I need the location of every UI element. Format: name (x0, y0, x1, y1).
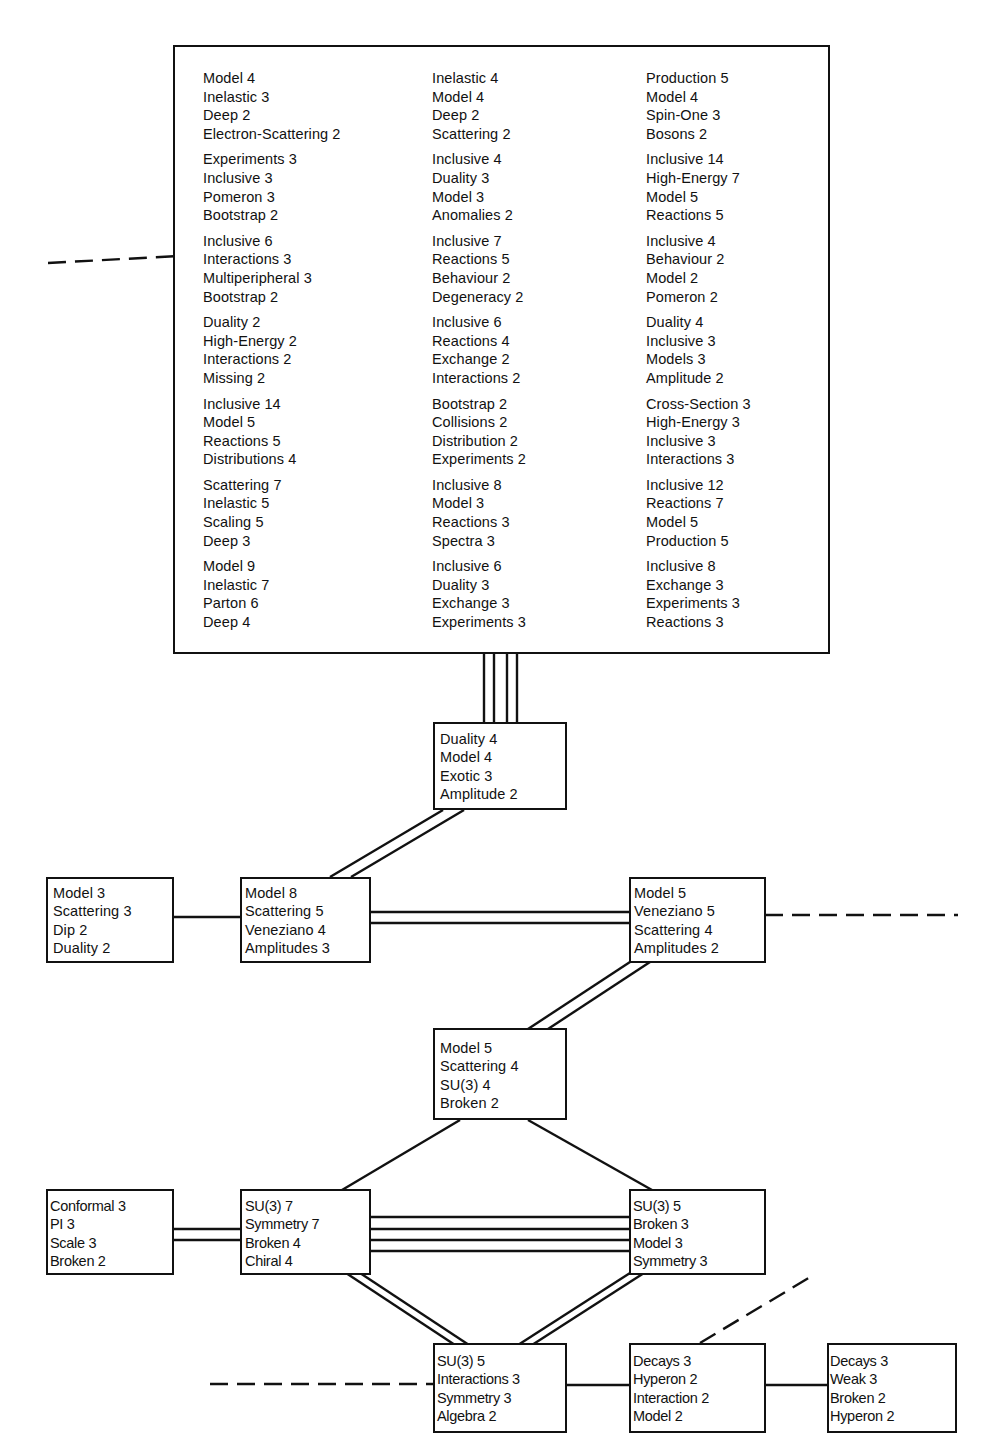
term: Chiral 4 (245, 1252, 369, 1270)
top-cluster-box: Model 4 Inelastic 3 Deep 2 Electron-Scat… (173, 45, 830, 654)
term: Degeneracy 2 (432, 288, 526, 307)
term: Reactions 3 (646, 613, 751, 632)
term: Inelastic 5 (203, 494, 341, 513)
term: Deep 2 (203, 106, 341, 125)
term: Parton 6 (203, 594, 341, 613)
node-model8: Model 8 Scattering 5 Veneziano 4 Amplitu… (240, 877, 371, 963)
cluster-column-2: Inelastic 4 Model 4 Deep 2 Scattering 2 … (432, 69, 526, 639)
term: PI 3 (50, 1215, 172, 1233)
term: Model 3 (633, 1234, 764, 1252)
term: Production 5 (646, 532, 751, 551)
term-group: Inclusive 14 Model 5 Reactions 5 Distrib… (203, 395, 341, 469)
term: Inclusive 3 (646, 332, 751, 351)
term: Model 8 (245, 884, 369, 902)
term: Spectra 3 (432, 532, 526, 551)
term: Missing 2 (203, 369, 341, 388)
term: Experiments 3 (646, 594, 751, 613)
term: Duality 4 (440, 730, 565, 748)
term: Interactions 2 (203, 350, 341, 369)
term-group: Inclusive 8 Exchange 3 Experiments 3 Rea… (646, 557, 751, 631)
term: Bootstrap 2 (203, 206, 341, 225)
term: Symmetry 3 (437, 1389, 565, 1407)
node-decays-hyperon: Decays 3 Hyperon 2 Interaction 2 Model 2 (629, 1343, 766, 1433)
term: Inclusive 6 (432, 313, 526, 332)
term: Models 3 (646, 350, 751, 369)
term: Duality 2 (53, 939, 172, 957)
term-group: Duality 2 High-Energy 2 Interactions 2 M… (203, 313, 341, 387)
term: Duality 4 (646, 313, 751, 332)
term-group: Inclusive 6 Interactions 3 Multiperipher… (203, 232, 341, 306)
term: Scattering 2 (432, 125, 526, 144)
term: Scattering 5 (245, 902, 369, 920)
term: SU(3) 5 (437, 1352, 565, 1370)
term-group: Inclusive 12 Reactions 7 Model 5 Product… (646, 476, 751, 550)
cluster-column-3: Production 5 Model 4 Spin-One 3 Bosons 2… (646, 69, 751, 639)
term: Deep 4 (203, 613, 341, 632)
term: Cross-Section 3 (646, 395, 751, 414)
term: Exotic 3 (440, 767, 565, 785)
term-group: Model 4 Inelastic 3 Deep 2 Electron-Scat… (203, 69, 341, 143)
term: Broken 2 (830, 1389, 955, 1407)
term: Inclusive 4 (646, 232, 751, 251)
term: SU(3) 5 (633, 1197, 764, 1215)
term: Algebra 2 (437, 1407, 565, 1425)
node-model3: Model 3 Scattering 3 Dip 2 Duality 2 (46, 877, 174, 963)
term: Duality 2 (203, 313, 341, 332)
term: Reactions 5 (203, 432, 341, 451)
term-group: Production 5 Model 4 Spin-One 3 Bosons 2 (646, 69, 751, 143)
term: Reactions 7 (646, 494, 751, 513)
term: High-Energy 2 (203, 332, 341, 351)
term: Model 4 (203, 69, 341, 88)
term: Scale 3 (50, 1234, 172, 1252)
term: Multiperipheral 3 (203, 269, 341, 288)
term-group: Model 9 Inelastic 7 Parton 6 Deep 4 (203, 557, 341, 631)
term: Scattering 4 (634, 921, 764, 939)
term: Behaviour 2 (646, 250, 751, 269)
term: Inclusive 8 (432, 476, 526, 495)
term: Exchange 2 (432, 350, 526, 369)
term: Scaling 5 (203, 513, 341, 532)
node-su3-5-interactions: SU(3) 5 Interactions 3 Symmetry 3 Algebr… (433, 1343, 567, 1433)
term: Broken 2 (440, 1094, 565, 1112)
term: Reactions 5 (646, 206, 751, 225)
term: Hyperon 2 (633, 1370, 764, 1388)
term-group: Inclusive 7 Reactions 5 Behaviour 2 Dege… (432, 232, 526, 306)
term: Broken 2 (50, 1252, 172, 1270)
term-group: Inclusive 8 Model 3 Reactions 3 Spectra … (432, 476, 526, 550)
term: Duality 3 (432, 576, 526, 595)
term: Model 5 (646, 188, 751, 207)
term: Amplitudes 2 (634, 939, 764, 957)
term: High-Energy 7 (646, 169, 751, 188)
term-group: Inclusive 6 Duality 3 Exchange 3 Experim… (432, 557, 526, 631)
term: Amplitude 2 (440, 785, 565, 803)
term: Weak 3 (830, 1370, 955, 1388)
term: High-Energy 3 (646, 413, 751, 432)
term: Duality 3 (432, 169, 526, 188)
cluster-column-1: Model 4 Inelastic 3 Deep 2 Electron-Scat… (203, 69, 341, 639)
term: Experiments 3 (203, 150, 341, 169)
term: Inelastic 3 (203, 88, 341, 107)
term: Decays 3 (633, 1352, 764, 1370)
term: Model 3 (432, 188, 526, 207)
term: Inclusive 4 (432, 150, 526, 169)
term-group: Cross-Section 3 High-Energy 3 Inclusive … (646, 395, 751, 469)
term: Bosons 2 (646, 125, 751, 144)
term: Inclusive 6 (432, 557, 526, 576)
term: Deep 2 (432, 106, 526, 125)
term: Inelastic 4 (432, 69, 526, 88)
term: Scattering 4 (440, 1057, 565, 1075)
term: Production 5 (646, 69, 751, 88)
term: Symmetry 7 (245, 1215, 369, 1233)
node-conformal: Conformal 3 PI 3 Scale 3 Broken 2 (46, 1189, 174, 1275)
term: Inclusive 6 (203, 232, 341, 251)
term: Anomalies 2 (432, 206, 526, 225)
term: Broken 4 (245, 1234, 369, 1252)
term-group: Inclusive 6 Reactions 4 Exchange 2 Inter… (432, 313, 526, 387)
term: Bootstrap 2 (203, 288, 341, 307)
term: Exchange 3 (646, 576, 751, 595)
term: Interactions 3 (646, 450, 751, 469)
term-group: Inclusive 4 Behaviour 2 Model 2 Pomeron … (646, 232, 751, 306)
term: Symmetry 3 (633, 1252, 764, 1270)
term: Interactions 3 (203, 250, 341, 269)
term: Model 5 (440, 1039, 565, 1057)
